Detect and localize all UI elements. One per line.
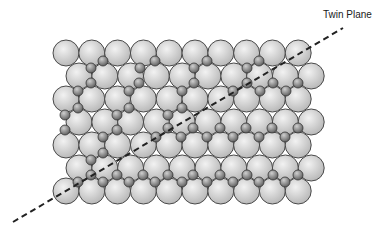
host-atom bbox=[105, 40, 131, 66]
solute-atom bbox=[112, 170, 122, 180]
solute-atom bbox=[112, 110, 122, 120]
solute-atom bbox=[86, 78, 96, 88]
solute-atom bbox=[241, 123, 251, 133]
solute-atom bbox=[112, 125, 122, 135]
solute-atom bbox=[280, 177, 290, 187]
solute-atom bbox=[163, 110, 173, 120]
solute-atom bbox=[254, 132, 264, 142]
crystal-lattice-diagram bbox=[0, 0, 386, 233]
solute-atom bbox=[293, 170, 303, 180]
solute-atom bbox=[293, 78, 303, 88]
solute-atom bbox=[98, 148, 108, 158]
solute-atom bbox=[254, 177, 264, 187]
solute-atom bbox=[86, 155, 96, 165]
solute-atom bbox=[189, 78, 199, 88]
solute-atom bbox=[242, 170, 252, 180]
solute-atom bbox=[60, 110, 70, 120]
solute-atom bbox=[98, 177, 108, 187]
solute-atom bbox=[255, 86, 265, 96]
solute-atom bbox=[163, 170, 173, 180]
solute-atom bbox=[73, 103, 83, 113]
solute-atom bbox=[202, 132, 212, 142]
solute-atom bbox=[228, 132, 238, 142]
solute-atom bbox=[215, 170, 225, 180]
solute-atom bbox=[98, 132, 108, 142]
solute-atom bbox=[293, 123, 303, 133]
solute-atom bbox=[268, 78, 278, 88]
solute-atom bbox=[188, 123, 198, 133]
solute-atom bbox=[177, 86, 187, 96]
solute-atom bbox=[124, 103, 134, 113]
solute-atom bbox=[86, 63, 96, 73]
host-atom bbox=[285, 40, 311, 66]
solute-atom bbox=[202, 177, 212, 187]
solute-atom bbox=[267, 123, 277, 133]
solute-atom bbox=[188, 170, 198, 180]
solute-atom bbox=[60, 125, 70, 135]
solute-atom bbox=[150, 177, 160, 187]
solute-atom bbox=[176, 132, 186, 142]
solute-atom bbox=[124, 177, 134, 187]
solute-atom bbox=[73, 86, 83, 96]
solute-atom bbox=[177, 103, 187, 113]
host-atom bbox=[143, 63, 169, 89]
solute-atom bbox=[202, 56, 212, 66]
solute-atom bbox=[150, 56, 160, 66]
solute-atom bbox=[281, 86, 291, 96]
host-atom bbox=[53, 132, 79, 158]
solute-atom bbox=[138, 170, 148, 180]
solute-atom bbox=[189, 63, 199, 73]
solute-atom bbox=[280, 132, 290, 142]
solute-atom bbox=[135, 63, 145, 73]
solute-atom bbox=[98, 56, 108, 66]
solute-atom bbox=[177, 177, 187, 187]
solute-atom bbox=[134, 78, 144, 88]
solute-atom bbox=[268, 170, 278, 180]
twin-plane-label: Twin Plane bbox=[323, 9, 372, 20]
solute-atom bbox=[215, 123, 225, 133]
solute-atom bbox=[124, 86, 134, 96]
solute-atom bbox=[228, 177, 238, 187]
solute-atom bbox=[242, 63, 252, 73]
host-atom bbox=[53, 40, 79, 66]
solute-atom bbox=[254, 56, 264, 66]
